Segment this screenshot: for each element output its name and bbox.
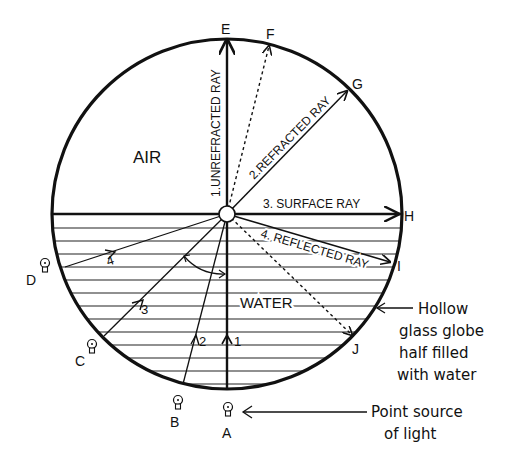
ray-4-label: 4. REFLECTED RAY	[259, 226, 370, 271]
label-b: B	[170, 414, 179, 430]
ray-2-marker: 2	[199, 334, 206, 349]
ray-1-marker: 1	[234, 334, 241, 349]
ray-3-marker: 3	[141, 302, 148, 317]
label-g: G	[352, 76, 363, 92]
ray-4-reflected	[227, 214, 390, 262]
globe-center	[219, 206, 235, 222]
bulb-icon-b	[174, 396, 183, 410]
water-hatching	[40, 228, 420, 384]
globe-annotation-1: Hollow	[418, 300, 468, 318]
source-annotation-2: of light	[384, 425, 437, 443]
refraction-diagram: E F G H I J A B C D AIR WATER 1.UNREFRAC…	[0, 0, 505, 454]
ray-3-label: 3. SURFACE RAY	[263, 197, 360, 211]
dashed-ray-to-f	[227, 46, 269, 214]
label-j: J	[352, 341, 359, 357]
ray-2-label: 2.REFRACTED RAY	[246, 93, 333, 182]
label-e: E	[221, 21, 230, 37]
region-air-label: AIR	[133, 148, 161, 167]
bulb-icon-c	[88, 340, 97, 354]
label-h: H	[404, 208, 414, 224]
bulb-icon-d	[41, 259, 50, 273]
source-annotation-1: Point source	[371, 403, 463, 421]
globe-annotation-2: glass globe	[399, 322, 484, 340]
label-c: C	[75, 353, 85, 369]
critical-angle-arc	[184, 256, 225, 274]
globe-annotation-4: with water	[397, 366, 477, 384]
label-d: D	[26, 272, 36, 288]
label-a: A	[222, 425, 232, 441]
ray-1-label: 1.UNREFRACTED RAY	[209, 69, 223, 197]
label-i: I	[397, 258, 401, 274]
ray-3-incident	[104, 214, 227, 336]
ray-4-marker: 4	[104, 252, 116, 269]
globe-annotation-3: half filled	[399, 344, 468, 362]
region-water-label: WATER	[240, 294, 293, 311]
bulb-icon-a	[224, 403, 233, 417]
label-f: F	[266, 26, 275, 42]
ray-2-refracted	[227, 91, 347, 214]
